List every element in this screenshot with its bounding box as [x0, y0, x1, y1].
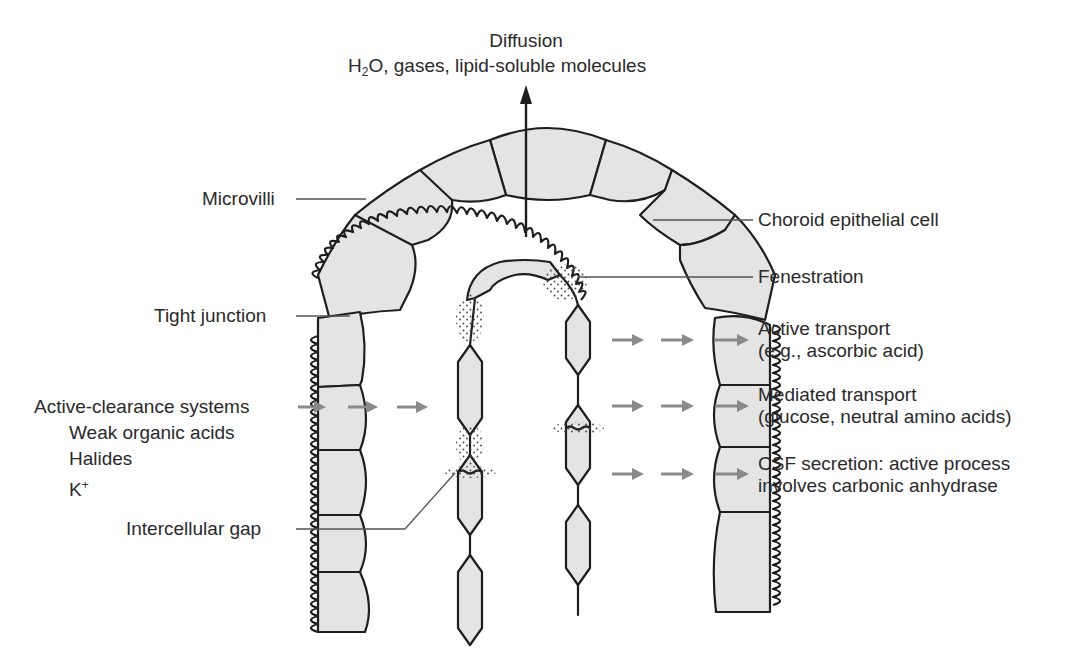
label-mediated-transport-example: (glucose, neutral amino acids)	[758, 406, 1011, 428]
label-choroid-epithelial-cell: Choroid epithelial cell	[758, 209, 939, 231]
potassium-charge: +	[82, 478, 89, 492]
label-weak-organic-acids: Weak organic acids	[69, 422, 234, 444]
choroid-plexus-diagram	[0, 0, 1086, 661]
potassium-symbol: K	[69, 479, 82, 500]
label-mediated-transport: Mediated transport	[758, 384, 916, 406]
label-csf-secretion-detail: involves carbonic anhydrase	[758, 475, 998, 497]
label-active-transport-example: (e.g., ascorbic acid)	[758, 340, 924, 362]
label-active-clearance: Active-clearance systems	[34, 396, 249, 418]
label-halides: Halides	[69, 448, 132, 470]
label-active-transport: Active transport	[758, 318, 890, 340]
label-fenestration: Fenestration	[758, 266, 864, 288]
label-tight-junction: Tight junction	[154, 305, 266, 327]
label-intercellular-gap: Intercellular gap	[126, 518, 261, 540]
transport-arrows	[298, 334, 749, 480]
diffusion-title: Diffusion	[426, 30, 626, 52]
diffusion-substances: H2O, gases, lipid-soluble molecules	[348, 55, 646, 83]
label-microvilli: Microvilli	[202, 188, 275, 210]
epithelial-cells	[318, 128, 775, 632]
h-symbol: H	[348, 55, 362, 76]
label-csf-secretion: CSF secretion: active process	[758, 453, 1010, 475]
label-potassium: K+	[69, 474, 89, 501]
diffusion-substances-text: O, gases, lipid-soluble molecules	[368, 55, 646, 76]
